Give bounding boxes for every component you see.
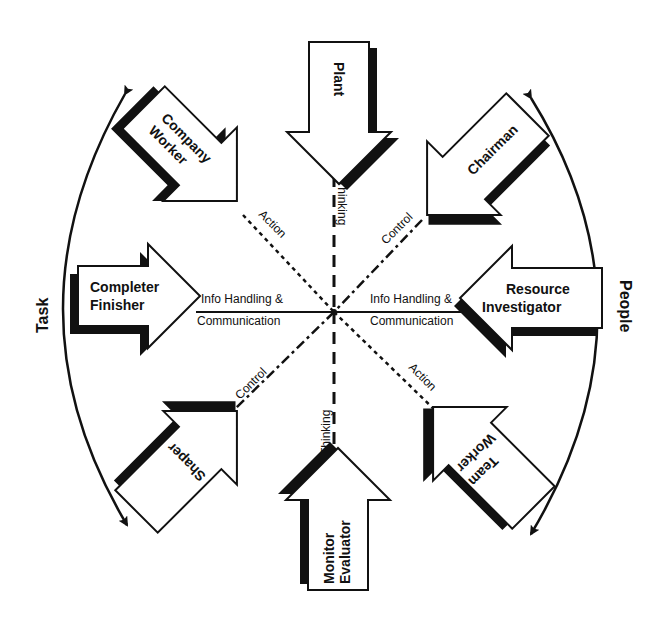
info-label-right-line2: Communication: [370, 314, 453, 328]
completer-finisher-label-2: Finisher: [90, 297, 145, 313]
info-label-left-line2: Communication: [197, 314, 280, 328]
resource-investigator-label-2: Investigator: [482, 299, 562, 315]
action-label-bottom-right: Action: [406, 360, 439, 393]
plant-label: Plant: [331, 62, 347, 97]
role-monitor-evaluator: Monitor Evaluator: [278, 442, 390, 590]
info-label-right-line1: Info Handling &: [370, 292, 452, 306]
monitor-evaluator-label-2: Evaluator: [337, 520, 353, 584]
people-label: People: [617, 280, 634, 333]
role-team-worker: Team Worker: [386, 366, 570, 550]
role-plant: Plant: [287, 42, 399, 190]
resource-investigator-label-1: Resource: [506, 281, 570, 297]
role-company-worker: Company Worker: [95, 65, 273, 243]
control-label-bottom-left: Control: [232, 365, 269, 402]
role-chairman: Chairman: [386, 78, 570, 262]
team-roles-diagram: Thinking Thinking Control Control Action…: [0, 0, 664, 628]
control-label-top-right: Control: [378, 210, 415, 247]
monitor-evaluator-label-1: Monitor: [321, 532, 337, 584]
completer-finisher-label-1: Completer: [90, 279, 160, 295]
role-resource-investigator: Resource Investigator: [454, 246, 602, 358]
role-completer-finisher: Completer Finisher: [70, 244, 200, 356]
info-label-left-line1: Info Handling &: [201, 292, 283, 306]
task-label: Task: [34, 298, 51, 333]
